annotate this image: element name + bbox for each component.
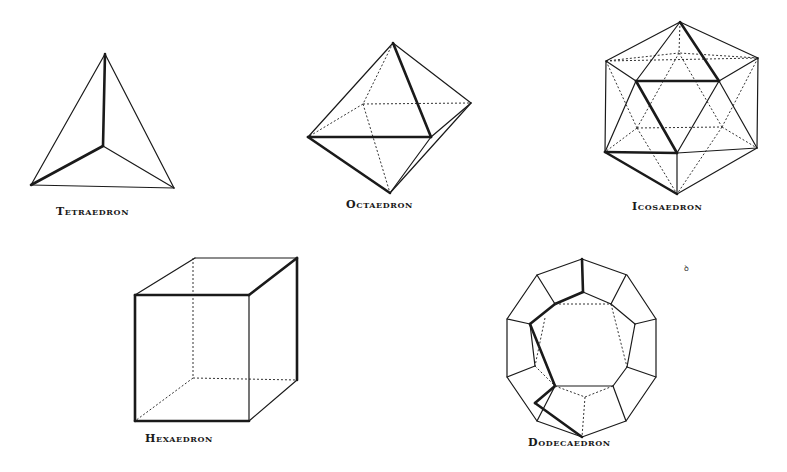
platonic-solids-diagram (0, 0, 787, 472)
icosahedron-label: Icosaedron (632, 200, 702, 213)
dodecahedron-figure (507, 259, 656, 437)
tetrahedron-label: Tetraedron (56, 205, 129, 218)
dodecahedron-label: Dodecaedron (528, 436, 611, 449)
tetrahedron-figure (31, 54, 174, 188)
octahedron-label: Octaedron (346, 198, 413, 211)
octahedron-figure (308, 43, 471, 193)
hexahedron-figure (135, 258, 297, 421)
icosahedron-figure (605, 22, 758, 194)
hexahedron-label: Hexaedron (145, 432, 213, 445)
stray-mark: ꝺ (684, 262, 689, 273)
